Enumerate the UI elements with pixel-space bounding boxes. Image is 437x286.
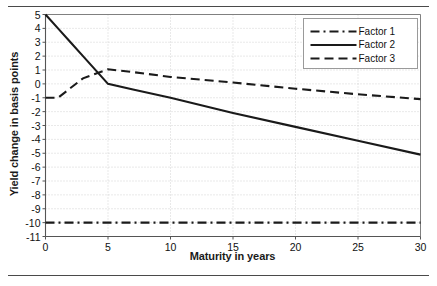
legend-label-1: Factor 1 xyxy=(359,27,396,37)
y-tick-label: -8 xyxy=(7,190,41,200)
bottom-horizontal-rule xyxy=(8,275,429,276)
y-tick-label: 5 xyxy=(7,10,41,20)
y-tick-label: -4 xyxy=(7,134,41,144)
top-horizontal-rule xyxy=(8,6,429,7)
y-tick-label: 4 xyxy=(7,23,41,33)
x-tick-label: 30 xyxy=(401,242,437,253)
y-tick-label: 2 xyxy=(7,51,41,61)
x-tick-label: 15 xyxy=(213,242,253,253)
y-tick-label: -6 xyxy=(7,162,41,172)
x-tick-label: 5 xyxy=(88,242,128,253)
y-tick-label: -1 xyxy=(7,93,41,103)
legend-label-2: Factor 2 xyxy=(359,40,396,50)
y-tick-label: -10 xyxy=(7,218,41,228)
y-tick-label: -9 xyxy=(7,204,41,214)
figure-container: Yield change in basis points Maturity in… xyxy=(0,0,437,286)
y-tick-label: 1 xyxy=(7,65,41,75)
y-tick-label: 0 xyxy=(7,79,41,89)
legend-label-3: Factor 3 xyxy=(359,54,396,64)
y-tick-label: -3 xyxy=(7,121,41,131)
y-tick-label: 3 xyxy=(7,37,41,47)
y-tick-label: -5 xyxy=(7,148,41,158)
y-tick-label: -11 xyxy=(7,232,41,242)
x-tick-label: 0 xyxy=(26,242,66,253)
x-tick-label: 10 xyxy=(151,242,191,253)
chart-area: Yield change in basis points Maturity in… xyxy=(0,10,437,272)
x-tick-label: 25 xyxy=(338,242,378,253)
x-tick-label: 20 xyxy=(276,242,316,253)
y-tick-label: -2 xyxy=(7,107,41,117)
y-tick-label: -7 xyxy=(7,176,41,186)
